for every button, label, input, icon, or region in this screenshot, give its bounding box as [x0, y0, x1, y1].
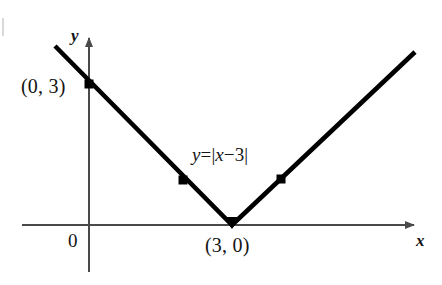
equation-label: y=|x−3| [192, 145, 248, 164]
point-marker-vertex [224, 217, 240, 229]
point-marker-y-intercept [85, 80, 94, 89]
y-intercept-point-label: (0, 3) [21, 76, 66, 96]
equation-y-term: y [192, 144, 201, 165]
vertex-point-label: (3, 0) [205, 235, 250, 255]
equation-equals-sign: = [201, 144, 212, 165]
absolute-value-graph-figure: y x 0 (0, 3) (3, 0) y=|x−3| [0, 0, 442, 285]
absolute-value-curve [55, 46, 415, 225]
y-axis-label: y [71, 27, 79, 44]
point-marker-left-mid [179, 176, 188, 185]
equation-constant: 3 [235, 144, 245, 165]
equation-minus-sign: − [224, 144, 235, 165]
equation-close-bar: | [244, 144, 248, 165]
x-axis-label: x [416, 232, 425, 249]
point-marker-right-mid [277, 175, 286, 184]
equation-x-term: x [215, 144, 224, 165]
origin-label: 0 [68, 231, 78, 250]
